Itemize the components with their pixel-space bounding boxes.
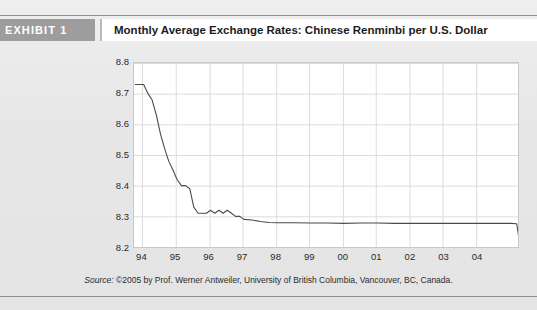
x-axis-tick-labels: 9495969798990001020304 bbox=[133, 251, 519, 265]
plot-area bbox=[133, 62, 519, 248]
exhibit-figure: EXHIBIT 1 Monthly Average Exchange Rates… bbox=[0, 0, 537, 310]
title-bar: Monthly Average Exchange Rates: Chinese … bbox=[100, 19, 537, 41]
chart-figure: 8.88.78.68.58.48.38.2 949596979899000102… bbox=[0, 41, 537, 296]
x-axis-tick: 95 bbox=[162, 251, 188, 262]
x-axis-tick: 97 bbox=[229, 251, 255, 262]
x-axis-tick: 94 bbox=[128, 251, 154, 262]
y-axis-tick-labels: 8.88.78.68.58.48.38.2 bbox=[101, 62, 129, 248]
y-axis-tick: 8.6 bbox=[103, 119, 129, 129]
x-axis-tick: 96 bbox=[196, 251, 222, 262]
source-note: Source: ©2005 by Prof. Werner Antweiler,… bbox=[0, 275, 537, 285]
exhibit-number-badge: EXHIBIT 1 bbox=[0, 19, 95, 41]
y-axis-tick: 8.2 bbox=[103, 243, 129, 253]
y-axis-tick: 8.4 bbox=[103, 181, 129, 191]
bottom-divider-rule bbox=[0, 296, 537, 297]
x-axis-tick: 04 bbox=[464, 251, 490, 262]
x-axis-tick: 98 bbox=[263, 251, 289, 262]
x-axis-tick: 02 bbox=[397, 251, 423, 262]
exhibit-header: EXHIBIT 1 Monthly Average Exchange Rates… bbox=[0, 19, 537, 41]
y-axis-tick: 8.8 bbox=[103, 57, 129, 67]
x-axis-tick: 01 bbox=[363, 251, 389, 262]
y-axis-tick: 8.7 bbox=[103, 88, 129, 98]
x-axis-tick: 00 bbox=[330, 251, 356, 262]
x-axis-tick: 99 bbox=[296, 251, 322, 262]
top-divider-rule bbox=[0, 15, 537, 16]
line-chart-svg bbox=[134, 63, 518, 247]
horizontal-gridlines bbox=[134, 63, 518, 247]
x-axis-tick: 03 bbox=[430, 251, 456, 262]
chart-title: Monthly Average Exchange Rates: Chinese … bbox=[114, 19, 488, 41]
exchange-rate-line bbox=[135, 84, 518, 240]
y-axis-tick: 8.5 bbox=[103, 150, 129, 160]
source-text: ©2005 by Prof. Werner Antweiler, Univers… bbox=[116, 275, 453, 285]
y-axis-tick: 8.3 bbox=[103, 212, 129, 222]
source-label: Source: bbox=[84, 275, 113, 285]
